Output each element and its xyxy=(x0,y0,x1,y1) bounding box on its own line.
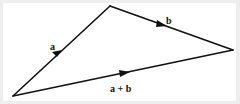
arrowhead-sum-icon xyxy=(119,70,130,77)
vector-a-line xyxy=(13,6,110,96)
vector-b-line xyxy=(110,6,233,50)
label-a: a xyxy=(50,41,55,52)
label-a-plus-b: a + b xyxy=(110,83,132,94)
label-b: b xyxy=(166,15,172,26)
vector-diagram: a b a + b xyxy=(0,0,240,104)
